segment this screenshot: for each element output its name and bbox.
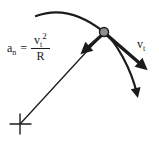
normal-acceleration-arrow (84, 35, 102, 51)
formula-lhs-sub: n (12, 48, 16, 57)
formula-lhs: an (7, 42, 16, 55)
velocity-label-sub: t (143, 44, 145, 53)
formula-fraction: vt2 R (31, 34, 50, 63)
velocity-label: vt (137, 38, 145, 51)
normal-acceleration-formula: an = vt2 R (7, 34, 50, 63)
diagram-canvas (0, 0, 159, 143)
formula-num-sup: 2 (42, 31, 47, 41)
equals-sign: = (20, 42, 27, 55)
formula-denominator: R (36, 49, 44, 63)
normal-acceleration-diagram: an = vt2 R vt (0, 0, 159, 143)
formula-numerator: vt2 (31, 34, 50, 49)
trajectory-curve (36, 12, 137, 94)
particle-dot (100, 28, 109, 37)
formula-num-sub: t (40, 40, 42, 49)
center-of-curvature-cross-icon (10, 114, 31, 134)
